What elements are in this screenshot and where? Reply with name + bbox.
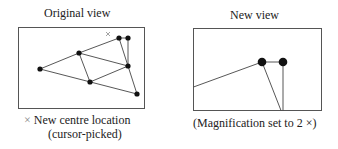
network-edges — [40, 38, 137, 94]
node — [258, 58, 267, 67]
magnification-caption: (Magnification set to 2 ×) — [193, 117, 316, 130]
network-nodes — [37, 35, 139, 96]
node — [37, 66, 42, 71]
original-view-panel — [19, 28, 145, 109]
new-view-panel — [194, 29, 322, 111]
legend-sublabel: (cursor-picked) — [48, 128, 122, 141]
new-view-title: New view — [230, 8, 279, 23]
node — [279, 58, 288, 67]
original-view-title: Original view — [44, 6, 110, 21]
original-view-frame — [19, 28, 145, 109]
node — [76, 50, 81, 55]
node — [134, 91, 139, 96]
centre-marker-legend-icon: × — [24, 113, 31, 127]
node — [116, 35, 121, 40]
centre-location-legend: × New centre location — [24, 114, 130, 127]
node — [125, 35, 130, 40]
zoomed-edges — [194, 62, 284, 111]
node — [87, 79, 92, 84]
new-view-frame — [194, 29, 322, 111]
centre-marker-icon — [106, 32, 110, 36]
node — [125, 63, 130, 68]
legend-label: New centre location — [34, 113, 131, 127]
